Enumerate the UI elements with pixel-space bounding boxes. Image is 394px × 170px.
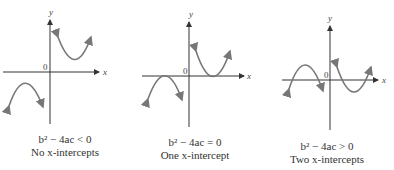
parabola-up <box>58 37 91 60</box>
parabola-down <box>9 83 43 107</box>
condition-label: b² − 4ac = 0 <box>130 136 260 149</box>
parabola-down <box>289 65 323 91</box>
parabola-down <box>148 76 182 100</box>
y-label: y <box>327 13 332 23</box>
x-label: x <box>246 71 251 81</box>
parabola-up <box>196 51 230 77</box>
origin-label: 0 <box>43 62 48 72</box>
y-label: y <box>188 9 193 19</box>
origin-label: 0 <box>324 70 329 80</box>
caption-label: Two x-intercepts <box>262 153 392 166</box>
condition-label: b² − 4ac < 0 <box>0 133 130 146</box>
condition-label: b² − 4ac > 0 <box>262 140 392 153</box>
caption-label: One x-intercept <box>130 149 260 162</box>
x-label: x <box>102 67 107 77</box>
caption-label: No x-intercepts <box>0 146 130 159</box>
x-label: x <box>381 75 386 85</box>
y-label: y <box>48 7 53 17</box>
panel-no-intercepts: y x 0 b² − 4ac < 0 No x-intercepts <box>0 0 130 170</box>
origin-label: 0 <box>183 66 188 76</box>
panel-two-intercepts: y x 0 b² − 4ac > 0 Two x-intercepts <box>260 0 394 170</box>
panel-one-intercept: y x 0 b² − 4ac = 0 One x-intercept <box>130 0 260 170</box>
